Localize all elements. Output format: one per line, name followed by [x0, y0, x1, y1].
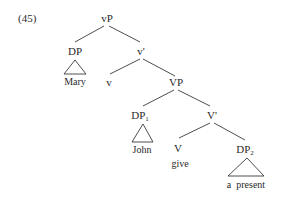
leaf-john: John [133, 144, 152, 155]
leaf-a-present: a present [227, 179, 266, 190]
branch-VP-DP1 [143, 90, 174, 106]
node-DP2: DP2 [236, 143, 254, 157]
triangle-DP-mary [64, 60, 86, 74]
branch-Vbar-DP2 [214, 123, 245, 140]
branch-vP-vbar [109, 26, 140, 42]
node-vP: vP [101, 12, 113, 24]
node-Vbar: V' [207, 109, 217, 121]
branch-vbar-VP [143, 59, 175, 76]
branch-vP-DP [75, 26, 104, 42]
example-number: (45) [18, 12, 37, 25]
triangle-DP1-john [132, 124, 153, 142]
syntax-tree: (45) vP DP Mary v' v VP DP1 John V' V gi… [0, 0, 281, 197]
branch-VP-Vbar [178, 90, 210, 106]
branch-vbar-v [110, 59, 140, 74]
node-VP: VP [169, 76, 183, 88]
node-v: v [106, 76, 112, 88]
leaf-mary: Mary [64, 76, 86, 87]
node-DP1: DP1 [131, 109, 149, 123]
node-vbar: v' [137, 45, 145, 57]
triangle-DP2-present [228, 158, 264, 176]
node-DP-spec: DP [68, 45, 82, 57]
node-V: V [174, 142, 182, 154]
leaf-give: give [171, 158, 189, 169]
branch-Vbar-V [179, 123, 210, 138]
